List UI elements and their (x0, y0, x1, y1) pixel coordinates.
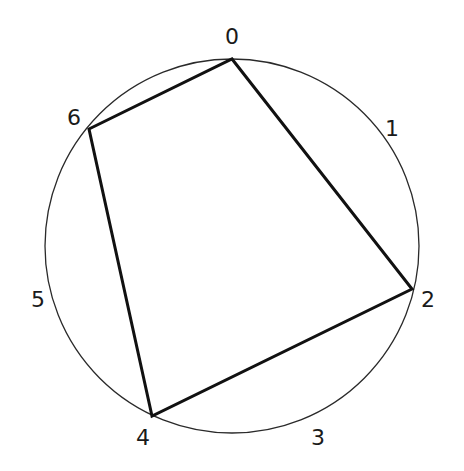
vertex-label-4: 4 (136, 425, 150, 450)
vertex-label-2: 2 (421, 287, 435, 312)
vertex-label-3: 3 (311, 425, 325, 450)
vertex-label-5: 5 (31, 287, 45, 312)
vertex-label-0: 0 (225, 24, 239, 49)
vertex-label-1: 1 (385, 116, 399, 141)
heptagram-diagram: 0 1 2 3 4 5 6 (0, 0, 464, 471)
vertex-labels: 0 1 2 3 4 5 6 (31, 24, 435, 450)
vertex-label-6: 6 (67, 105, 81, 130)
